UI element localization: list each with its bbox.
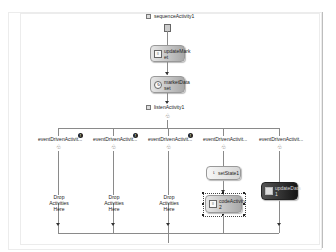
drop-zone[interactable]: Drop Activities Here [44, 194, 74, 212]
resize-handle[interactable] [243, 203, 245, 205]
listen-label: listenActivity1 [154, 104, 184, 110]
drop-zone[interactable]: Drop Activities Here [99, 194, 129, 212]
state-icon: ⇂ [210, 170, 216, 176]
event-icon: ♧ [165, 144, 171, 150]
resize-handle[interactable] [202, 192, 204, 194]
activity-icon [265, 187, 273, 195]
connector [58, 151, 59, 195]
collapse-icon[interactable] [146, 105, 151, 110]
arrow-icon [277, 223, 281, 226]
resize-handle[interactable] [243, 192, 245, 194]
collapse-icon[interactable] [146, 14, 151, 19]
update-market-label: updateMark et [164, 48, 190, 60]
resize-handle[interactable] [202, 203, 204, 205]
connector [279, 227, 280, 233]
update-market-activity[interactable]: ≡ updateMark et [150, 45, 185, 62]
event-icon: ♧ [55, 144, 61, 150]
connector [168, 128, 169, 136]
arrow-icon [56, 223, 60, 226]
connector [168, 151, 169, 195]
code-activity-label: codeActivity 2 [219, 198, 246, 210]
warning-icon[interactable]: ! [133, 133, 138, 138]
resize-handle[interactable] [202, 214, 204, 216]
connector [167, 31, 168, 45]
connector [223, 128, 224, 136]
sequence-header[interactable]: sequenceActivity1 [146, 13, 194, 19]
branch-label[interactable]: eventDrivenActivit... [38, 136, 82, 142]
drop-zone[interactable]: Drop Activities Here [154, 194, 184, 212]
connector [113, 227, 114, 233]
event-icon: ♧ [110, 144, 116, 150]
invoke-icon: ↻ [154, 81, 162, 89]
branch-label[interactable]: eventDrivenActivit... [148, 136, 192, 142]
resize-handle[interactable] [222, 192, 224, 194]
market-dataset-label: marketData set [164, 79, 190, 91]
connector [167, 120, 168, 128]
set-state-label: setState1 [218, 170, 239, 176]
arrow-icon [166, 223, 170, 226]
update-data-activity[interactable]: updateData 1 [261, 182, 298, 200]
arrow-icon [165, 72, 169, 75]
market-dataset-activity[interactable]: ↻ marketData set [150, 76, 185, 93]
connector [58, 128, 59, 136]
listen-header[interactable]: listenActivity1 [146, 104, 184, 110]
warning-icon[interactable]: ! [188, 133, 193, 138]
update-data-label: updateData 1 [275, 185, 301, 197]
event-icon: ♧ [276, 144, 282, 150]
branch-label[interactable]: eventDrivenActivit... [203, 136, 247, 142]
listen-icon: ♧ [164, 113, 170, 119]
code-icon: ≡ [209, 200, 217, 208]
branch-label[interactable]: eventDrivenActivit... [93, 136, 137, 142]
connector [279, 128, 280, 136]
connector [223, 215, 224, 233]
code-icon: ≡ [154, 50, 162, 58]
connector [168, 233, 169, 243]
branch-label[interactable]: eventDrivenActivit... [259, 136, 303, 142]
resize-handle[interactable] [243, 214, 245, 216]
set-state-activity[interactable]: ⇂ setState1 [206, 166, 241, 180]
arrow-icon [111, 223, 115, 226]
connector [113, 128, 114, 136]
connector [113, 151, 114, 195]
scrollbar-divider [322, 12, 323, 248]
sequence-label: sequenceActivity1 [154, 13, 194, 19]
warning-icon[interactable]: ! [78, 133, 83, 138]
code-activity-2[interactable]: ≡ codeActivity 2 [205, 195, 242, 213]
event-icon: ♧ [220, 144, 226, 150]
connector [58, 227, 59, 233]
